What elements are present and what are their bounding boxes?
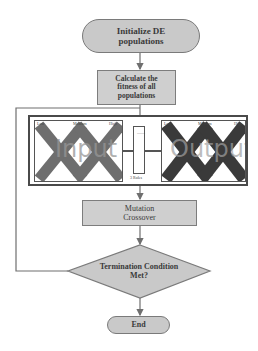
decision-label-line2: Met?: [130, 271, 148, 280]
start-label-line2: populations: [118, 36, 163, 46]
output-label-low: Low: [164, 121, 171, 126]
input-to-rules-line: [123, 150, 133, 152]
rules-dots: ........: [137, 130, 141, 135]
output-watermark: Output: [170, 135, 246, 163]
mutation-crossover-box: Mutation Crossover: [82, 200, 197, 226]
end-terminal: End: [107, 316, 170, 334]
decision-label-line1: Termination Condition: [100, 262, 179, 271]
input-label-high: High: [109, 121, 117, 126]
fis-figure: Low Medium High Input ........ 3 Rules L…: [28, 115, 248, 186]
start-label: Initialize DE populations: [83, 20, 199, 52]
fitness-label-line3: populations: [118, 92, 156, 101]
input-watermark: Input: [55, 135, 117, 163]
end-label: End: [108, 317, 169, 333]
decision-label: Termination Condition Met?: [68, 258, 210, 284]
mutation-label-line2: Crossover: [123, 213, 155, 222]
rules-caption: 3 Rules: [130, 175, 142, 180]
input-membership-chart: Low Medium High Input: [34, 120, 123, 182]
start-terminal: Initialize DE populations: [82, 19, 200, 53]
fitness-label: Calculate the fitness of all populations: [98, 71, 175, 104]
rules-box: ........: [133, 126, 145, 174]
output-label-medium: Medium: [198, 121, 212, 126]
fitness-process-box: Calculate the fitness of all populations: [97, 70, 176, 105]
input-label-low: Low: [37, 121, 44, 126]
start-label-line1: Initialize DE: [117, 26, 166, 36]
mutation-label-line1: Mutation: [125, 204, 154, 213]
output-membership-chart: Low Medium High Output: [161, 120, 246, 182]
rules-to-output-line: [145, 150, 161, 152]
input-label-medium: Medium: [73, 121, 87, 126]
mutation-label: Mutation Crossover: [83, 201, 196, 225]
output-label-high: High: [234, 121, 242, 126]
